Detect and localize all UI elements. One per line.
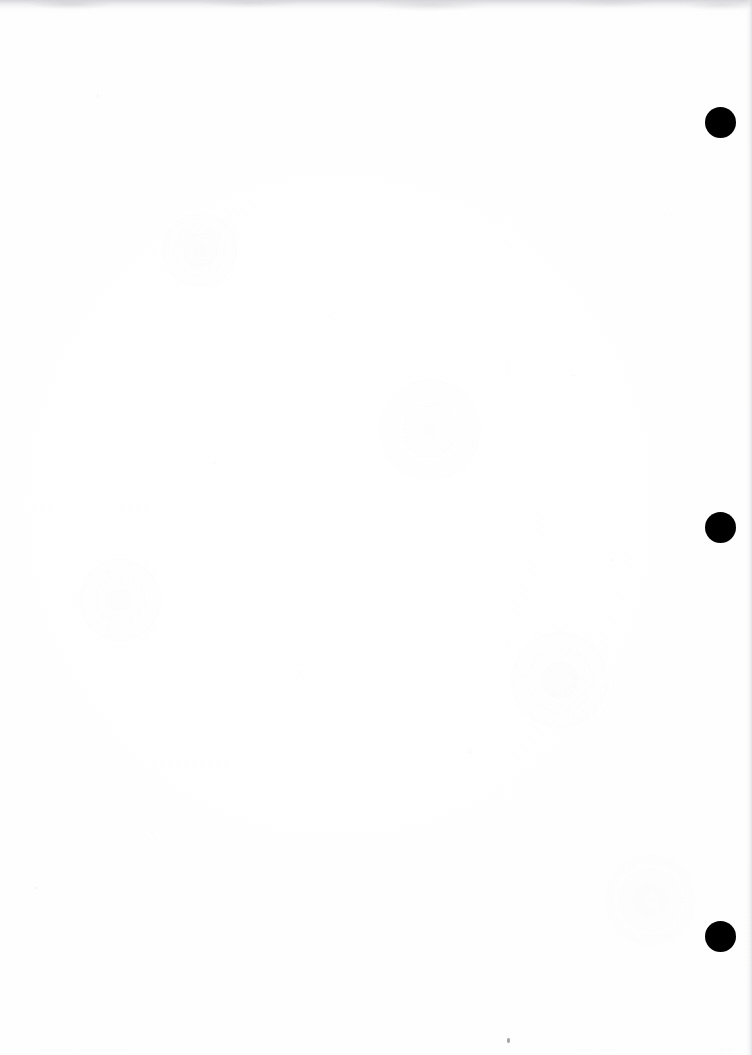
- scanned-page: [0, 0, 752, 1055]
- registration-mark-1: [705, 107, 736, 138]
- registration-mark-3: [705, 921, 736, 952]
- registration-mark-2: [705, 512, 736, 543]
- paper-background: [0, 0, 752, 1055]
- paper-speck: [507, 1038, 510, 1043]
